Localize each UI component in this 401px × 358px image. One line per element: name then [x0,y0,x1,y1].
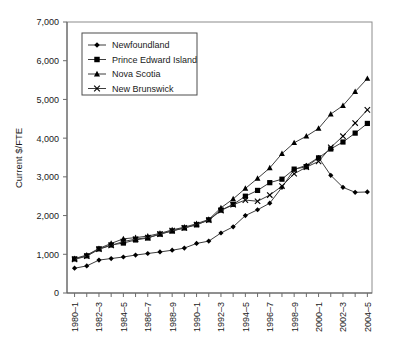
x-axis-tick-label: 1984–5 [119,302,129,332]
chart-legend: NewfoundlandPrince Edward IslandNova Sco… [82,33,197,95]
x-axis-tick-label: 1986–7 [143,302,153,332]
x-axis-tick-label: 2002–3 [338,302,348,332]
x-axis-tick-label: 1992–3 [216,302,226,332]
x-axis-tick-label: 2004–5 [363,302,373,332]
x-axis-tick-label: 1980–1 [70,302,80,332]
y-axis-tick-label: 1,000 [36,250,59,260]
legend-label: Newfoundland [112,40,170,50]
y-axis-tick-label: 7,000 [36,17,59,27]
x-axis-tick-label: 1996–7 [265,302,275,332]
y-axis-tick-label: 6,000 [36,56,59,66]
y-axis-tick-label: 0 [54,288,59,298]
data-point-square [353,131,358,136]
x-axis-tick-label: 2000–1 [314,302,324,332]
y-axis-tick-label: 5,000 [36,95,59,105]
data-point-square [267,180,272,185]
y-axis-title: Current $/FTE [13,128,24,188]
x-axis-tick-label: 1998–9 [290,302,300,332]
data-point-square [340,139,345,144]
chart-container: 01,0002,0003,0004,0005,0006,0007,000 Cur… [0,0,401,358]
line-chart: 01,0002,0003,0004,0005,0006,0007,000 Cur… [0,0,401,358]
data-point-square [365,121,370,126]
x-axis-tick-label: 1988–9 [168,302,178,332]
y-axis-tick-label: 2,000 [36,211,59,221]
data-point-square [94,57,99,62]
data-point-square [279,177,284,182]
data-point-square [292,167,297,172]
y-axis-tick-label: 3,000 [36,172,59,182]
legend-label: Prince Edward Island [112,55,197,65]
x-axis-tick-label: 1994–5 [241,302,251,332]
y-axis-tick-label: 4,000 [36,134,59,144]
x-axis-tick-label: 1982–3 [94,302,104,332]
legend-label: Nova Scotia [112,69,161,79]
legend-label: New Brunswick [112,84,174,94]
x-axis-tick-label: 1990–1 [192,302,202,332]
data-point-square [255,188,260,193]
